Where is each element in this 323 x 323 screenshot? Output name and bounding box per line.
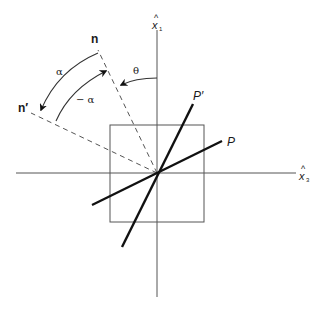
plane-p-prime-label: P′	[193, 89, 204, 103]
svg-text:1: 1	[159, 26, 163, 32]
theta-arc-arrow	[121, 78, 157, 85]
normal-n-dashed-line	[98, 50, 157, 173]
plane-p-label: P	[227, 135, 235, 149]
rotation-diagram: ^ x 1 ^ x 3 P P′ n n′ θ α − α	[0, 0, 323, 323]
alpha-label: α	[56, 66, 63, 77]
svg-text:3: 3	[306, 177, 310, 183]
normal-n-prime-label: n′	[18, 101, 28, 115]
svg-text:x: x	[298, 170, 305, 182]
x1-axis-label: ^ x 1	[151, 13, 163, 32]
svg-text:x: x	[151, 19, 158, 31]
normal-n-label: n	[91, 32, 98, 46]
minus-alpha-label: − α	[76, 94, 95, 105]
theta-label: θ	[133, 65, 139, 76]
x3-axis-label: ^ x 3	[298, 164, 310, 183]
normal-n-prime-dashed-line	[31, 113, 157, 173]
